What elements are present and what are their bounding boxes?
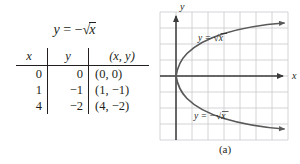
y-axis-label: y <box>179 1 185 12</box>
cell-x: 4 <box>16 98 48 114</box>
table-header: x y (x, y) <box>16 48 149 66</box>
table-header-row: x y (x, y) <box>16 48 149 65</box>
cell-x: 0 <box>16 66 48 83</box>
table-row: 0 0 (0, 0) <box>16 66 149 83</box>
cell-y: 0 <box>48 66 89 83</box>
curve-label-upper-text: y=√x <box>197 33 224 43</box>
column-header-y: y <box>48 48 89 65</box>
curve-label-lower-lhs: y <box>193 111 199 121</box>
equation-title: y = −√x <box>0 22 150 38</box>
curve-label-lower-minus: − <box>210 111 215 121</box>
equation-minus: − <box>75 22 83 37</box>
value-table: x y (x, y) 0 0 (0, 0) 1 −1 <box>16 48 149 114</box>
curve-label-upper-radicand: x <box>218 33 224 43</box>
figure-caption: (a) <box>150 143 300 155</box>
curve-label-lower-radicand: x <box>220 111 226 121</box>
cell-y: −2 <box>48 98 89 114</box>
curve-label-lower-text: y=−√x <box>193 111 226 121</box>
radicand: x <box>89 22 96 38</box>
equation-lhs: y <box>54 22 60 37</box>
curve-label-upper-lhs: y <box>197 33 203 43</box>
cell-pair: (0, 0) <box>89 66 150 83</box>
cell-x: 1 <box>16 82 48 98</box>
table-row: 1 −1 (1, −1) <box>16 82 149 98</box>
cell-pair: (1, −1) <box>89 82 150 98</box>
radical-group: √x <box>83 22 97 38</box>
curve-label-upper-equals: = <box>205 33 210 43</box>
figure-container: y = −√x x y (x, y) 0 0 <box>0 0 300 164</box>
table-body: 0 0 (0, 0) 1 −1 (1, −1) 4 −2 (4, −2) <box>16 66 149 115</box>
equation-equals: = <box>63 22 71 37</box>
table-panel: y = −√x x y (x, y) 0 0 <box>0 0 150 164</box>
table-row: 4 −2 (4, −2) <box>16 98 149 114</box>
curve-label-lower-equals: = <box>201 111 206 121</box>
cell-pair: (4, −2) <box>89 98 150 114</box>
column-header-x: x <box>16 48 48 65</box>
cell-y: −1 <box>48 82 89 98</box>
x-axis-label: x <box>291 70 297 81</box>
coordinate-plane-graph: x y y=√x y=−√x <box>150 0 300 164</box>
column-header-pair: (x, y) <box>89 48 150 65</box>
graph-panel: x y y=√x y=−√x (a) <box>150 0 300 164</box>
